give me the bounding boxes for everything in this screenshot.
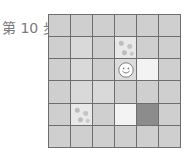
grid-cell-dark-r4-c4 [137, 104, 158, 125]
grid-cell-light-r3-c2 [93, 81, 114, 102]
grid-cell-normal-r3-c3 [115, 81, 136, 102]
grid-cell-light-r1-c1 [71, 37, 92, 58]
grid-cell-normal-r3-c5 [159, 81, 180, 102]
grid-cell-normal-r0-c5 [159, 15, 180, 36]
grid-cell-normal-r0-c0 [49, 15, 70, 36]
game-grid [48, 14, 181, 148]
grid-cell-normal-r2-c0 [49, 59, 70, 80]
grid-cell-normal-r0-c4 [137, 15, 158, 36]
grid-cell-white-r4-c3 [115, 104, 136, 125]
grid-cell-normal-r5-c5 [159, 126, 180, 147]
grid-cell-light-r2-c1 [71, 59, 92, 80]
grid-cell-agent-r2-c3 [115, 59, 136, 80]
grid-cell-normal-r2-c2 [93, 59, 114, 80]
grid-cell-normal-r1-c5 [159, 37, 180, 58]
grid-cell-normal-r1-c0 [49, 37, 70, 58]
grid-cell-white-r2-c4 [137, 59, 158, 80]
grid-cell-normal-r2-c5 [159, 59, 180, 80]
grid-cell-normal-r4-c2 [93, 104, 114, 125]
grid-cell-normal-r3-c4 [137, 81, 158, 102]
grid-cell-normal-r4-c0 [49, 104, 70, 125]
grid-cell-normal-r0-c3 [115, 15, 136, 36]
grid-cell-normal-r5-c3 [115, 126, 136, 147]
grid-cell-normal-r5-c2 [93, 126, 114, 147]
grid-cell-normal-r4-c5 [159, 104, 180, 125]
grid-cell-textured-r1-c3 [115, 37, 136, 58]
grid-cell-textured-r4-c1 [71, 104, 92, 125]
grid-cell-normal-r1-c4 [137, 37, 158, 58]
grid-cell-normal-r1-c2 [93, 37, 114, 58]
grid-cell-normal-r5-c4 [137, 126, 158, 147]
grid-cell-normal-r0-c2 [93, 15, 114, 36]
grid-cell-normal-r5-c1 [71, 126, 92, 147]
grid-cell-light-r3-c1 [71, 81, 92, 102]
grid-cell-normal-r5-c0 [49, 126, 70, 147]
grid-cell-normal-r0-c1 [71, 15, 92, 36]
smiley-face-icon [118, 62, 134, 78]
grid-cell-normal-r3-c0 [49, 81, 70, 102]
